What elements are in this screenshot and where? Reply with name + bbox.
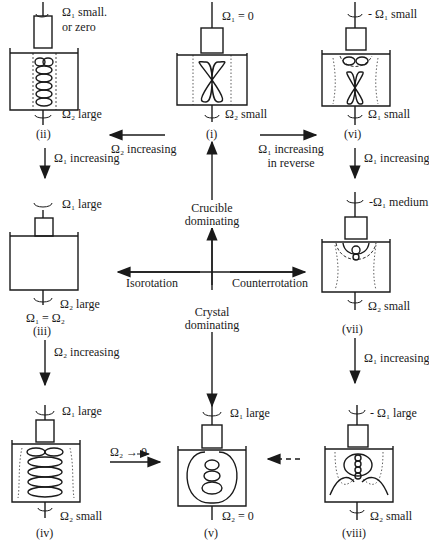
- transition-vi-to-vii: Ω₁ increasing: [364, 152, 429, 165]
- panel-vii-id: (vii): [342, 323, 363, 336]
- panel-vii-top-label: -Ω₁ medium: [369, 196, 428, 209]
- panel-ii-id: (ii): [36, 128, 51, 141]
- panel-vi-bottom-label: Ω₁ small: [368, 108, 410, 121]
- panel-i-top-label: Ω₁ = 0: [222, 10, 254, 23]
- panel-ii-top-label: Ω₁ small.: [62, 6, 107, 19]
- axis-top-label-2: dominating: [172, 215, 252, 228]
- axis-bottom-label-2: dominating: [172, 319, 252, 332]
- axis-right-label: Counterrotation: [232, 277, 308, 290]
- panel-viii-id: (viii): [342, 527, 366, 540]
- transition-ii-to-iii: Ω₁ increasing: [54, 152, 119, 165]
- panel-v-top-label: Ω₁ large: [230, 407, 270, 420]
- panel-iii: [10, 203, 78, 305]
- panel-iv-top-label: Ω₁ large: [62, 405, 102, 418]
- panel-i-id: (i): [206, 128, 217, 141]
- panel-v-id: (v): [204, 527, 218, 540]
- transition-iii-to-iv: Ω₂ increasing: [54, 346, 119, 359]
- transition-iv-to-v: Ω₂ → 0: [110, 446, 147, 459]
- panel-v-bottom-label: Ω₂ = 0: [222, 510, 254, 523]
- panel-iii-id: (iii): [33, 325, 51, 338]
- panel-viii-top-label: - Ω₁ large: [370, 407, 417, 420]
- panel-v: [178, 405, 246, 520]
- panel-ii-bottom-label: Ω₂ large: [62, 108, 102, 121]
- panel-iii-top-label: Ω₁ large: [62, 198, 102, 211]
- panel-i-bottom-label: Ω₂ small: [225, 108, 267, 121]
- panel-vi-id: (vi): [344, 128, 361, 141]
- transition-i-to-vi-line1: Ω₁ increasing: [256, 143, 326, 156]
- panel-iii-bottom-label: Ω₂ large: [60, 298, 100, 311]
- panel-iv: [12, 405, 80, 518]
- panel-vi-top-label: - Ω₁ small: [368, 8, 417, 21]
- axis-left-label: Isorotation: [126, 277, 178, 290]
- transition-vii-to-viii: Ω₁ increasing: [364, 352, 429, 365]
- panel-iv-id: (iv): [36, 527, 53, 540]
- transition-i-to-vi-line2: in reverse: [256, 157, 326, 170]
- panel-iv-bottom-label: Ω₂ small: [60, 510, 102, 523]
- panel-ii-top-label-2: or zero: [62, 21, 96, 34]
- transition-i-to-ii: Ω₂ increasing: [111, 143, 176, 156]
- panel-viii-bottom-label: Ω₂ small: [370, 510, 412, 523]
- panel-viii: [325, 405, 393, 520]
- panel-vii: [322, 192, 390, 310]
- panel-vii-bottom-label: Ω₂ small: [368, 300, 410, 313]
